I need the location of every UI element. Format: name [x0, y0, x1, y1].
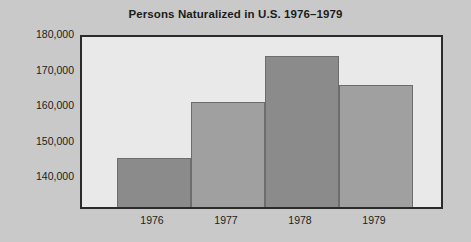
y-tick-label-160000: 160,000: [6, 99, 74, 111]
y-tick-label-150000: 150,000: [6, 135, 74, 147]
bar-1978: [265, 56, 339, 207]
y-axis-tick-labels: 140,000150,000160,000170,000180,000: [0, 0, 74, 242]
x-tick-label-1976: 1976: [115, 214, 189, 226]
x-tick-label-1977: 1977: [189, 214, 263, 226]
bar-1977: [191, 102, 265, 207]
x-tick-label-1979: 1979: [337, 214, 411, 226]
y-tick-label-140000: 140,000: [6, 170, 74, 182]
bar-1979: [339, 85, 413, 207]
plot-area: [80, 35, 443, 209]
chart-figure: Persons Naturalized in U.S. 1976–1979 14…: [0, 0, 471, 242]
y-tick-label-180000: 180,000: [6, 28, 74, 40]
x-tick-label-1978: 1978: [263, 214, 337, 226]
bar-1976: [117, 158, 191, 207]
y-tick-label-170000: 170,000: [6, 64, 74, 76]
x-axis-tick-labels: 1976197719781979: [0, 214, 471, 234]
plot-bars-container: [82, 37, 441, 207]
